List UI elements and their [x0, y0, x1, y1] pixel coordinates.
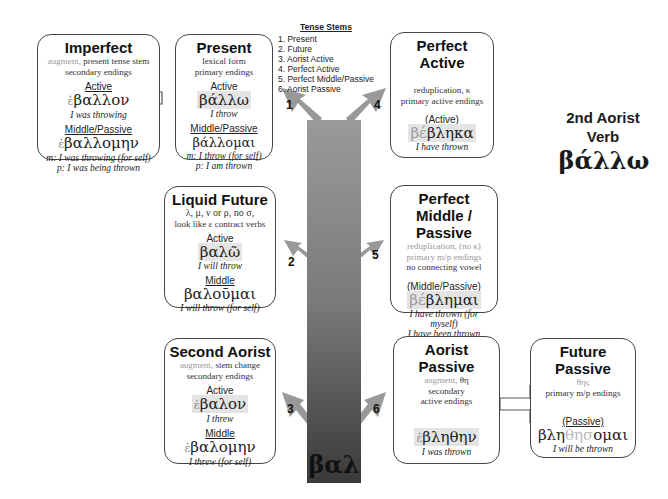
arrow-number-2: 2	[288, 255, 295, 269]
perfect-middle-passive-box: Perfect Middle / Passive reduplication, …	[390, 185, 498, 313]
stem-item: 5. Perfect Middle/Passive	[278, 74, 374, 84]
arrow-number-4: 4	[374, 98, 381, 112]
verb-title: 2nd Aorist Verb	[548, 108, 658, 146]
stem-item: 2. Future	[278, 44, 374, 54]
stem-item: 1. Present	[278, 34, 374, 44]
arrow-number-3: 3	[287, 402, 294, 416]
box-title: Imperfect	[42, 39, 155, 56]
arrow-number-6: 6	[373, 402, 380, 416]
arrow-number-5: 5	[372, 248, 379, 262]
present-box: Present lexical form primary endings Act…	[175, 34, 273, 160]
tense-stems-legend: Tense Stems 1. Present 2. Future 3. Aori…	[278, 22, 374, 94]
tense-stems-heading: Tense Stems	[278, 22, 374, 32]
arrow-number-1: 1	[286, 98, 293, 112]
stem-item: 3. Aorist Active	[278, 54, 374, 64]
stem-item: 4. Perfect Active	[278, 64, 374, 74]
imperfect-box: Imperfect augment, present tense stem se…	[37, 34, 160, 160]
liquid-future-box: Liquid Future λ, μ, ν or ρ, no σ, look l…	[164, 186, 276, 308]
perfect-active-box: Perfect Active reduplication, κ primary …	[390, 32, 494, 158]
aorist-passive-box: Aorist Passive augment, θη secondary act…	[393, 336, 500, 464]
stem-trunk	[307, 120, 361, 483]
second-aorist-box: Second Aorist augment, stem change secon…	[164, 338, 276, 464]
root-stem: βαλ	[307, 450, 361, 479]
future-passive-box: Future Passive θης primary m/p endings (…	[530, 338, 636, 458]
stem-item: 6. Aorist Passive	[278, 84, 374, 94]
verb-lexical-form: βάλλω	[540, 146, 668, 175]
